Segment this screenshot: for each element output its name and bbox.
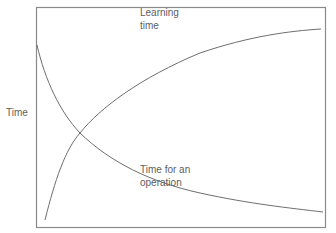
- operation-time-annotation-line1: Time for an: [140, 163, 210, 176]
- operation-time-annotation: Time for an operation: [140, 163, 210, 189]
- plot-frame: [37, 8, 326, 228]
- learning-time-annotation-line1: Learning: [140, 6, 200, 19]
- learning-time-annotation-line2: time: [140, 19, 200, 32]
- learning-time-annotation: Learning time: [140, 6, 200, 32]
- learning-time-curve: [45, 29, 321, 220]
- y-axis-label: Time: [6, 106, 28, 119]
- operation-time-annotation-line2: operation: [140, 176, 210, 189]
- chart-canvas: [0, 0, 336, 233]
